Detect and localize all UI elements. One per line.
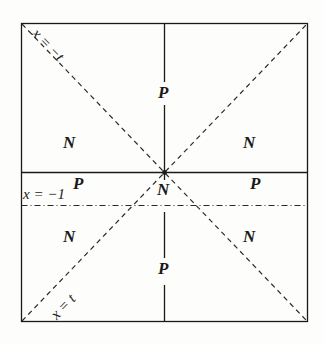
- region-label-lower-left: N: [63, 228, 75, 245]
- region-label-upper-right: N: [243, 134, 255, 151]
- region-label-middle-right: P: [250, 175, 260, 192]
- origin-point-marker: [162, 170, 167, 175]
- region-label-middle-left: P: [73, 175, 83, 192]
- region-label-bottom-center: P: [158, 260, 168, 277]
- axis-label-x-equals-minus-one: x = −1: [23, 187, 65, 202]
- region-label-lower-right: N: [243, 228, 255, 245]
- region-label-center-origin: N: [157, 181, 169, 198]
- region-label-upper-left: N: [63, 134, 75, 151]
- figure-canvas: N N N N P P N P P x = −1 x = −t x = t: [0, 0, 324, 344]
- region-label-top-center: P: [158, 84, 168, 101]
